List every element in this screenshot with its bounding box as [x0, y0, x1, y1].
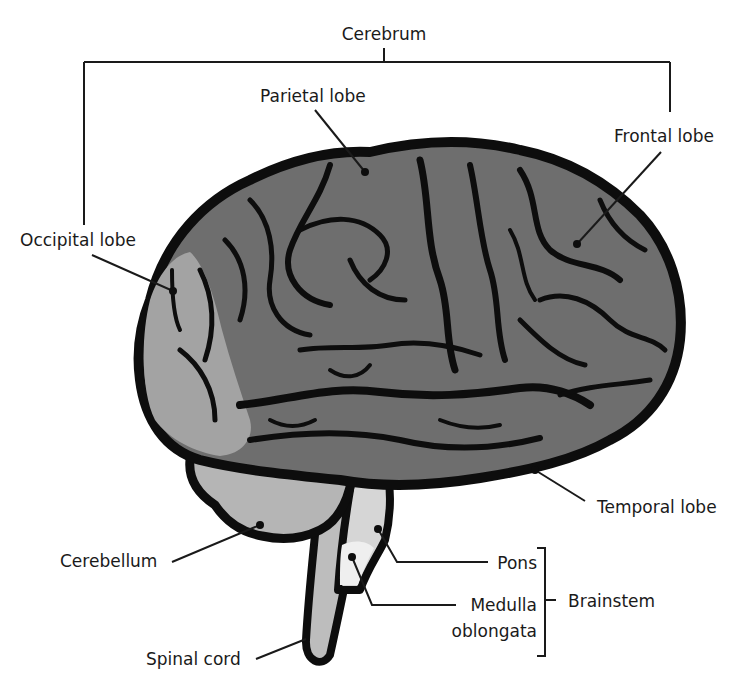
- brain-diagram-svg: Cerebrum: [0, 0, 747, 694]
- cerebrum-label: Cerebrum: [342, 24, 427, 44]
- brain-diagram: Cerebrum: [0, 0, 747, 694]
- frontal-lobe-label: Frontal lobe: [614, 126, 714, 146]
- spinal-cord-label: Spinal cord: [146, 649, 241, 669]
- temporal-leader: [535, 470, 585, 501]
- pons-label: Pons: [497, 553, 537, 573]
- medulla-label-line1: Medulla: [470, 595, 537, 615]
- cerebellum-label: Cerebellum: [60, 551, 157, 571]
- brainstem-bracket: [537, 548, 556, 656]
- pons-leader: [378, 529, 488, 562]
- medulla-label-line2: oblongata: [452, 621, 537, 641]
- brainstem-label: Brainstem: [568, 591, 655, 611]
- parietal-lobe-label: Parietal lobe: [260, 86, 366, 106]
- temporal-lobe-label: Temporal lobe: [596, 497, 717, 517]
- spinal-cord-leader: [256, 639, 306, 659]
- cerebellum-leader: [172, 525, 260, 562]
- occipital-lobe-label: Occipital lobe: [20, 230, 136, 250]
